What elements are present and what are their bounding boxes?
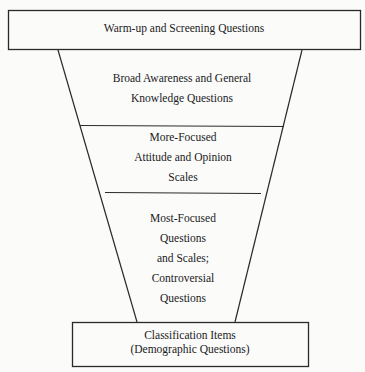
stage-more-focused-line: Attitude and Opinion (100, 147, 266, 167)
stage-broad-line: Broad Awareness and General (80, 68, 284, 88)
stage-warmup-line: Warm-up and Screening Questions (104, 22, 264, 34)
stage-classification-label: Classification Items (Demographic Questi… (72, 328, 308, 356)
stage-most-focused-line: Questions (113, 228, 253, 248)
stage-broad-line: Knowledge Questions (80, 88, 284, 108)
divider-2 (105, 193, 261, 194)
stage-more-focused-line: More-Focused (100, 127, 266, 147)
stage-most-focused-line: Most-Focused (113, 208, 253, 228)
stage-most-focused-line: Controversial (113, 268, 253, 288)
stage-more-focused-label: More-Focused Attitude and Opinion Scales (100, 127, 266, 187)
stage-most-focused-line: and Scales; (113, 248, 253, 268)
stage-classification-line: (Demographic Questions) (72, 342, 308, 356)
stage-most-focused-label: Most-Focused Questions and Scales; Contr… (113, 208, 253, 308)
stage-most-focused-line: Questions (113, 288, 253, 308)
stage-classification-line: Classification Items (72, 328, 308, 342)
stage-more-focused-line: Scales (100, 167, 266, 187)
stage-warmup-label: Warm-up and Screening Questions (8, 22, 360, 34)
stage-broad-label: Broad Awareness and General Knowledge Qu… (80, 68, 284, 108)
